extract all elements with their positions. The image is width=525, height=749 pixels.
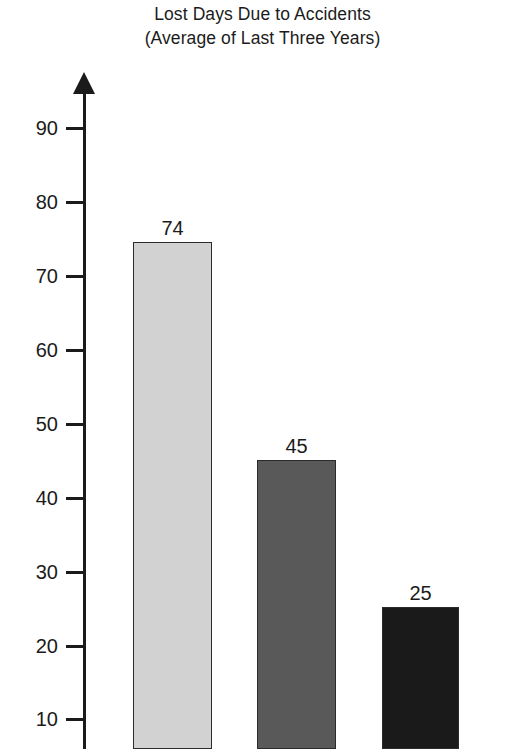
y-axis-tick-label-wrap: 60 <box>0 340 58 360</box>
y-axis-tick <box>66 127 84 130</box>
y-axis-tick <box>66 645 84 648</box>
y-axis-tick-label-wrap: 20 <box>0 636 58 656</box>
y-axis-tick-label: 50 <box>14 414 58 434</box>
y-axis-tick <box>66 423 84 426</box>
plot-area: 90 80 70 60 50 40 30 20 <box>0 0 525 749</box>
y-axis-tick <box>66 497 84 500</box>
y-axis-line <box>83 78 86 749</box>
y-axis-tick-label: 30 <box>14 562 58 582</box>
y-axis-tick-label-wrap: 70 <box>0 266 58 286</box>
y-axis-tick-label: 10 <box>14 709 58 729</box>
bar-2-value-label: 45 <box>257 436 336 456</box>
y-axis-tick-label-wrap: 80 <box>0 192 58 212</box>
y-axis-tick-label: 20 <box>14 636 58 656</box>
y-axis-tick <box>66 718 84 721</box>
y-axis-tick-label-wrap: 10 <box>0 709 58 729</box>
bar-2 <box>257 460 336 749</box>
y-axis-tick-label: 90 <box>14 118 58 138</box>
y-axis-tick-label-wrap: 50 <box>0 414 58 434</box>
y-axis-tick-label: 70 <box>14 266 58 286</box>
y-axis-tick-label: 80 <box>14 192 58 212</box>
bar-1 <box>133 242 212 749</box>
bar-3-value-label: 25 <box>382 583 459 603</box>
bar-3 <box>382 607 459 749</box>
y-axis-tick-label-wrap: 40 <box>0 488 58 508</box>
bar-1-value-label: 74 <box>133 218 212 238</box>
y-axis-tick-label: 60 <box>14 340 58 360</box>
y-axis-tick-label-wrap: 90 <box>0 118 58 138</box>
y-axis-tick <box>66 571 84 574</box>
y-axis-tick-label: 40 <box>14 488 58 508</box>
y-axis-tick-label-wrap: 30 <box>0 562 58 582</box>
y-axis-tick <box>66 201 84 204</box>
y-axis-arrow-icon <box>73 72 95 94</box>
y-axis-tick <box>66 275 84 278</box>
bar-chart: Lost Days Due to Accidents (Average of L… <box>0 0 525 749</box>
y-axis-tick <box>66 349 84 352</box>
